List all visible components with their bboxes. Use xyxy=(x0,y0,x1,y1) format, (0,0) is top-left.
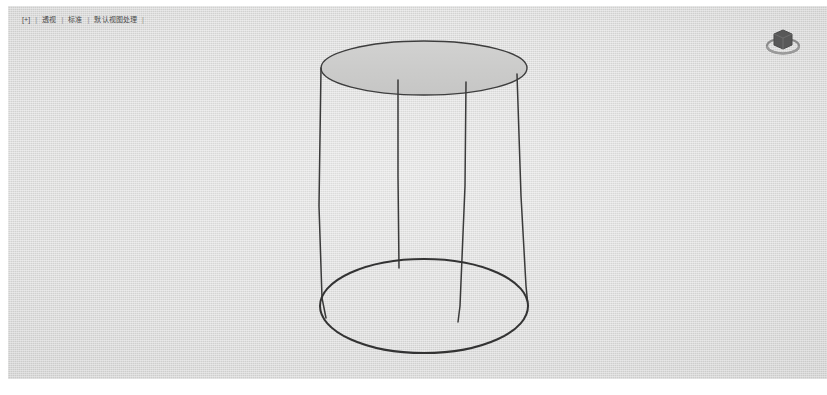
cylinder-edge-right-silhouette xyxy=(517,74,528,306)
header-separator-2: | xyxy=(87,15,91,24)
header-item-default-view-transform[interactable]: 默认视图处理 xyxy=(94,15,137,24)
header-separator-3: | xyxy=(141,15,145,24)
cylinder-top-cap xyxy=(321,41,527,95)
header-item-standard[interactable]: 标准 xyxy=(68,15,82,24)
viewport-header-text: [+] | 透视 | 标准 | 默认视图处理 | xyxy=(22,15,145,24)
header-collapse-toggle[interactable]: [+] xyxy=(22,15,30,24)
screenshot-page: [+] | 透视 | 标准 | 默认视图处理 | xyxy=(0,0,827,395)
page-top-margin xyxy=(0,0,827,6)
header-item-perspective[interactable]: 透视 xyxy=(42,15,56,24)
cylinder-edge-left-silhouette xyxy=(319,68,326,318)
gizmo-icon xyxy=(761,18,805,62)
view-orientation-gizmo[interactable] xyxy=(761,18,805,62)
page-left-margin xyxy=(0,0,8,395)
header-separator-0: | xyxy=(34,15,38,24)
header-separator-1: | xyxy=(60,15,64,24)
cylinder-geometry-svg xyxy=(8,6,827,379)
scene-object-cylinder[interactable] xyxy=(8,6,827,379)
cylinder-edge-inner-left xyxy=(398,80,399,268)
3d-viewport[interactable]: [+] | 透视 | 标准 | 默认视图处理 | xyxy=(8,6,827,379)
cylinder-edge-inner-right xyxy=(458,82,466,322)
page-bottom-margin xyxy=(0,379,827,395)
cylinder-bottom-cap xyxy=(320,259,528,353)
